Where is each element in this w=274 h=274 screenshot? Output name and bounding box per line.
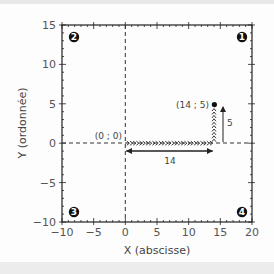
quadrant-1-marker: 1 (237, 32, 247, 43)
svg-text:−10: −10 (33, 216, 56, 229)
svg-text:−5: −5 (40, 177, 56, 190)
axis-ticks (59, 22, 255, 225)
dx-label: 14 (164, 156, 176, 166)
point-14-5 (212, 102, 217, 107)
svg-text:10: 10 (42, 58, 56, 71)
chart-figure: −10 −5 0 5 10 15 20 −10 −5 0 5 10 15 X (… (0, 0, 274, 274)
svg-text:20: 20 (245, 226, 259, 239)
y-axis-title: Y (ordonnée) (16, 87, 29, 159)
quadrant-3-marker: 3 (69, 207, 79, 218)
y-tick-labels: −10 −5 0 5 10 15 (33, 19, 56, 229)
svg-text:10: 10 (182, 226, 196, 239)
quadrant-4-marker: 4 (237, 207, 247, 218)
svg-text:−5: −5 (86, 226, 102, 239)
svg-text:4: 4 (239, 207, 245, 217)
svg-text:0: 0 (49, 137, 56, 150)
x-tick-labels: −10 −5 0 5 10 15 20 (50, 226, 259, 239)
path-chevrons (127, 109, 216, 146)
svg-text:5: 5 (154, 226, 161, 239)
svg-text:3: 3 (71, 207, 77, 217)
point-label: (14 ; 5) (176, 100, 209, 110)
quadrant-2-marker: 2 (69, 32, 79, 43)
x-axis-title: X (abscisse) (124, 244, 190, 257)
dy-label: 5 (227, 118, 233, 128)
svg-text:5: 5 (49, 98, 56, 111)
svg-text:15: 15 (213, 226, 227, 239)
svg-text:15: 15 (42, 19, 56, 32)
origin-label: (0 ; 0) (95, 131, 122, 141)
svg-text:0: 0 (122, 226, 129, 239)
svg-text:2: 2 (71, 32, 77, 42)
svg-text:1: 1 (239, 32, 245, 42)
